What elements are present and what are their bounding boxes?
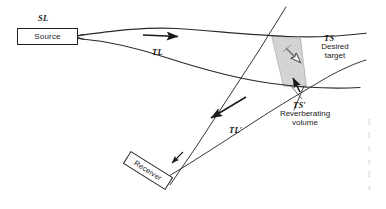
margin-artifact-line: s bbox=[368, 181, 384, 194]
reverberating-line-2: volume bbox=[256, 119, 354, 128]
tl-prime-label-return: TL′ bbox=[229, 126, 242, 136]
desired-target-volume bbox=[272, 36, 307, 88]
margin-artifact-line: i bbox=[368, 142, 384, 155]
tl-label-outgoing: TL bbox=[152, 48, 163, 58]
margin-artifact-line: l bbox=[368, 129, 384, 142]
source-box[interactable]: Source bbox=[17, 28, 78, 45]
return-arrow bbox=[211, 97, 246, 118]
reverberating-volume-caption: Reverberating volume bbox=[256, 110, 354, 128]
margin-artifact-line: l bbox=[368, 116, 384, 129]
boundary-line-steep bbox=[170, 7, 286, 185]
source-feed-upper bbox=[78, 34, 84, 36]
ray-path-upper bbox=[78, 28, 366, 37]
page-margin-artifact: llirls bbox=[368, 116, 384, 194]
desired-target-line-2: target bbox=[303, 52, 367, 61]
ts-prime-leader bbox=[291, 86, 302, 99]
sl-label: SL bbox=[38, 14, 48, 24]
margin-artifact-line: r bbox=[368, 155, 384, 168]
forward-arrow bbox=[143, 35, 178, 37]
acoustic-propagation-figure: Source Receiver SL TL TL′ TS TS′ Desired… bbox=[0, 0, 386, 209]
receiver-arrow bbox=[172, 152, 183, 163]
margin-artifact-line: l bbox=[368, 168, 384, 181]
desired-target-caption: Desired target bbox=[303, 43, 367, 61]
